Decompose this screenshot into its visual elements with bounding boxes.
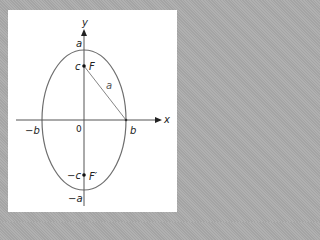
covertex-point (125, 119, 128, 122)
focus-upper-coord-label: c (75, 61, 81, 72)
x-axis-arrow-icon (155, 117, 162, 123)
focus-lower-name-label: F′ (89, 171, 98, 182)
y-axis-label: y (81, 17, 89, 28)
left-covertex-label: −b (25, 125, 40, 136)
ellipse-diagram: y x 0 a c F a −b b −c F′ −a (0, 0, 185, 222)
focus-upper-name-label: F (89, 61, 95, 72)
focus-to-covertex-segment (84, 66, 126, 120)
x-axis-label: x (163, 114, 170, 125)
focus-lower-coord-label: −c (67, 170, 81, 181)
focus-upper-point (82, 64, 86, 68)
segment-label: a (106, 80, 112, 91)
top-vertex-label: a (76, 38, 82, 49)
right-covertex-label: b (130, 125, 136, 136)
focus-lower-point (82, 173, 86, 177)
bottom-vertex-label: −a (68, 193, 83, 204)
y-axis-arrow-icon (81, 29, 87, 36)
origin-label: 0 (76, 124, 82, 134)
